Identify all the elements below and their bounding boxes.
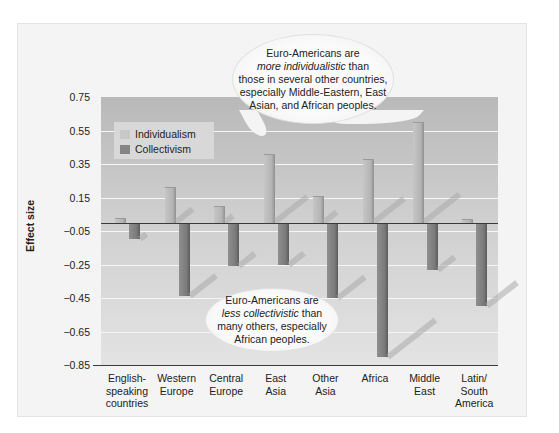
y-tick-label: 0.75: [0, 91, 90, 103]
x-tick-label: Latin/SouthAmerica: [444, 372, 504, 410]
bar-shadow: [174, 206, 194, 224]
bar-shadow: [422, 192, 461, 224]
bar-collectivism: [476, 223, 487, 307]
collectivism-swatch: [120, 145, 130, 154]
bar-shadow: [386, 317, 437, 359]
bar-shadow: [138, 232, 148, 241]
gridline: [101, 231, 498, 232]
bar-collectivism: [228, 223, 239, 267]
annotation-bottom-emphasis: less collectivistic: [222, 307, 299, 319]
annotation-top-line: Euro-Americans are: [233, 47, 393, 60]
annotation-top-line: those in several other countries,: [233, 73, 393, 86]
bar-shadow: [337, 275, 367, 301]
gridline: [101, 164, 498, 165]
x-tick-label-line: Latin/: [444, 372, 504, 385]
bar-collectivism: [179, 223, 190, 297]
x-tick-label-line: America: [444, 397, 504, 410]
annotation-bottom-line: Euro-Americans are: [206, 294, 338, 307]
bar-collectivism: [278, 223, 289, 265]
y-tick-label: −0.45: [0, 292, 90, 304]
annotation-top-emphasis: more individualistic: [257, 60, 346, 72]
bar-individualism: [363, 159, 374, 224]
annotation-top: Euro-Americans are more individualistic …: [232, 34, 394, 124]
legend-label-individualism: Individualism: [135, 128, 196, 140]
y-tick-label: 0.55: [0, 125, 90, 137]
bar-collectivism: [427, 223, 438, 270]
y-tick-label: −0.05: [0, 225, 90, 237]
y-tick-label: −0.65: [0, 326, 90, 338]
annotation-top-line: more individualistic than: [233, 60, 393, 73]
bar-shadow: [372, 196, 406, 224]
legend-item-individualism: Individualism: [120, 128, 196, 140]
zero-baseline: [101, 223, 498, 224]
legend-item-collectivism: Collectivism: [120, 143, 191, 155]
annotation-bottom-line: African peoples.: [206, 333, 338, 346]
y-tick-label: 0.35: [0, 158, 90, 170]
y-tick-label: 0.15: [0, 192, 90, 204]
y-tick-label: −0.25: [0, 259, 90, 271]
x-tick-label-line: Asia: [295, 385, 355, 398]
annotation-bottom-line: less collectivistic than: [206, 307, 338, 320]
bar-individualism: [264, 154, 275, 224]
x-tick-label-line: South: [444, 385, 504, 398]
annotation-bottom: Euro-Americans are less collectivistic t…: [205, 288, 339, 352]
annotation-top-line: especially Middle-Eastern, East: [233, 86, 393, 99]
x-tick-label-line: countries: [97, 397, 157, 410]
annotation-top-text: than: [346, 60, 369, 72]
bar-collectivism: [327, 223, 338, 298]
annotation-top-line: Asian, and African peoples.: [233, 99, 393, 112]
annotation-bottom-text: than: [299, 307, 322, 319]
legend-label-collectivism: Collectivism: [135, 143, 191, 155]
individualism-swatch: [120, 130, 130, 139]
bar-shadow: [237, 252, 256, 269]
bar-collectivism: [377, 223, 388, 357]
bar-individualism: [413, 122, 424, 224]
annotation-bottom-line: many others, especially: [206, 320, 338, 333]
bar-shadow: [436, 254, 456, 272]
y-tick-label: −0.85: [0, 359, 90, 371]
legend: Individualism Collectivism: [114, 122, 214, 159]
x-axis-line: [93, 365, 498, 366]
